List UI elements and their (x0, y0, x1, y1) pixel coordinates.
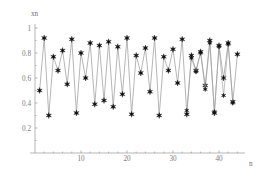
data-point-marker (115, 44, 120, 50)
data-point-marker (147, 89, 152, 95)
data-point-marker (83, 75, 88, 81)
data-point-marker (60, 48, 65, 54)
data-point-marker (124, 35, 129, 41)
data-point-marker (42, 35, 47, 41)
data-series-group (37, 35, 240, 119)
data-point-marker (101, 98, 106, 104)
chart-container: 0.20.40.60.8110203040 xn n (0, 0, 263, 181)
data-point-marker (92, 101, 97, 107)
data-point-marker (55, 68, 60, 74)
y-tick-label: 0.6 (22, 75, 31, 83)
data-point-marker (203, 87, 207, 92)
x-tick-label: 10 (77, 155, 85, 163)
data-point-marker (88, 40, 93, 46)
data-point-marker (143, 45, 148, 51)
data-point-marker (157, 113, 162, 119)
data-point-marker (166, 68, 171, 74)
data-point-marker (129, 111, 134, 117)
y-tick-label: 0.4 (22, 100, 31, 108)
data-point-marker (138, 70, 143, 76)
data-point-marker (222, 93, 226, 98)
data-point-marker (106, 39, 111, 45)
y-axis-title: xn (31, 10, 39, 18)
data-point-marker (134, 53, 139, 59)
data-point-marker (97, 43, 102, 49)
data-point-marker (65, 81, 70, 87)
data-point-marker (51, 54, 56, 60)
data-series-line (40, 38, 238, 116)
y-tick-label: 0.8 (22, 50, 31, 58)
x-tick-label: 30 (169, 155, 177, 163)
data-point-marker (46, 113, 51, 119)
data-point-marker (235, 51, 240, 57)
x-tick-label: 20 (123, 155, 131, 163)
x-tick-label: 40 (215, 155, 223, 163)
data-point-marker (185, 108, 189, 113)
data-point-marker (180, 36, 185, 42)
chart-svg: 0.20.40.60.8110203040 xn n (0, 0, 263, 181)
data-series-line (187, 43, 233, 112)
data-point-marker (120, 91, 125, 97)
data-point-marker (37, 88, 42, 94)
data-point-marker (161, 54, 166, 60)
x-axis-title: n (249, 160, 253, 168)
data-point-marker (74, 110, 79, 116)
data-point-marker (78, 50, 83, 56)
data-point-marker (175, 80, 180, 86)
y-tick-label: 1 (27, 25, 31, 33)
data-point-marker (152, 35, 157, 41)
data-point-marker (170, 46, 175, 52)
y-tick-label: 0.2 (22, 125, 31, 133)
data-point-marker (69, 36, 74, 42)
data-point-marker (111, 104, 116, 110)
